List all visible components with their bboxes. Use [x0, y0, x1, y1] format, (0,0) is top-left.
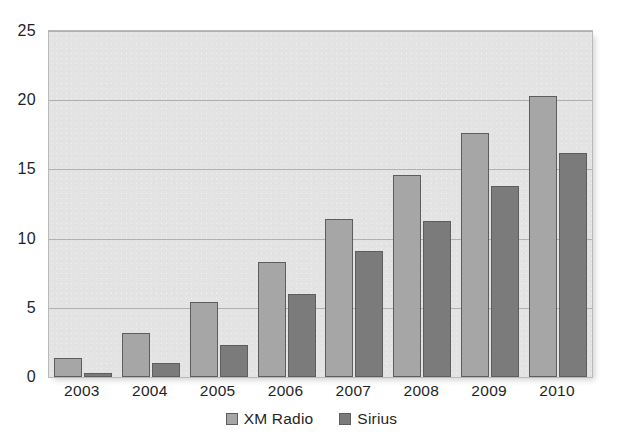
x-tick-label: 2004 — [132, 382, 168, 400]
bar-texture — [153, 364, 179, 376]
legend-item[interactable]: XM Radio — [226, 411, 314, 427]
bar-texture — [326, 220, 352, 376]
x-tick-label: 2009 — [471, 382, 507, 400]
y-tick-label: 10 — [18, 231, 36, 247]
bar-texture — [394, 176, 420, 376]
bar — [54, 358, 82, 377]
bar — [122, 333, 150, 377]
bar — [529, 96, 557, 377]
bar-texture — [492, 187, 518, 376]
bar-texture — [55, 359, 81, 376]
y-tick-label: 25 — [18, 23, 36, 39]
y-tick-label: 20 — [18, 92, 36, 108]
bar — [461, 133, 489, 377]
x-tick-label: 2008 — [403, 382, 439, 400]
bar-chart-figure: 0510152025 20032004200520062007200820092… — [0, 0, 623, 444]
bar-texture — [221, 346, 247, 376]
x-tick-label: 2006 — [268, 382, 304, 400]
bar — [288, 294, 316, 377]
bar — [258, 262, 286, 377]
bar — [393, 175, 421, 377]
bar — [190, 302, 218, 377]
y-tick-label: 5 — [27, 300, 36, 316]
y-axis: 0510152025 — [0, 0, 44, 444]
x-axis: 20032004200520062007200820092010 — [48, 382, 593, 404]
bar — [325, 219, 353, 377]
legend-swatch-icon — [339, 413, 351, 425]
y-tick-label: 15 — [18, 161, 36, 177]
bar-texture — [289, 295, 315, 376]
x-tick-label: 2010 — [539, 382, 575, 400]
bar-texture — [424, 222, 450, 376]
legend-swatch-icon — [226, 413, 238, 425]
plot-area — [48, 30, 593, 378]
bar-texture — [356, 252, 382, 376]
legend-label: Sirius — [357, 411, 397, 427]
bar — [84, 373, 112, 377]
bar — [355, 251, 383, 377]
bar-texture — [85, 374, 111, 376]
bar-texture — [530, 97, 556, 376]
chart-legend: XM RadioSirius — [0, 411, 623, 427]
bar-texture — [462, 134, 488, 376]
x-tick-label: 2007 — [336, 382, 372, 400]
legend-label: XM Radio — [244, 411, 314, 427]
bar — [220, 345, 248, 377]
bar-texture — [560, 154, 586, 376]
legend-item[interactable]: Sirius — [339, 411, 397, 427]
x-tick-label: 2005 — [200, 382, 236, 400]
bar-texture — [191, 303, 217, 376]
y-tick-label: 0 — [27, 369, 36, 385]
bar-texture — [259, 263, 285, 376]
bar — [559, 153, 587, 377]
bars-layer — [49, 31, 592, 377]
bar-texture — [123, 334, 149, 376]
bar — [491, 186, 519, 377]
bar — [423, 221, 451, 377]
x-tick-label: 2003 — [64, 382, 100, 400]
bar — [152, 363, 180, 377]
